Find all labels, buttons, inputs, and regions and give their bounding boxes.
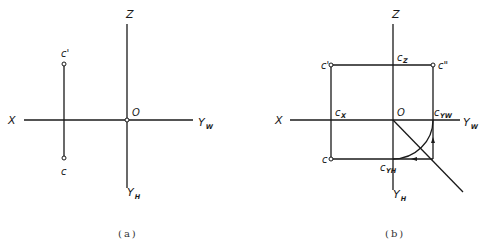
x-axis-label: X	[274, 114, 283, 127]
point-c-prime-label: c'	[321, 60, 329, 71]
point-c-double-prime-label: c"	[438, 60, 448, 71]
z-axis-label: Z	[125, 8, 134, 21]
point-c	[329, 157, 333, 161]
point-cx-label: cX	[335, 107, 347, 120]
origin-label: O	[397, 107, 405, 118]
panel-b: X Z O YW YH c' c" c cZ cX cYW cYH (b)	[274, 8, 479, 239]
arrow-up-icon	[431, 137, 435, 143]
caption-b: (b)	[385, 228, 405, 239]
point-c-label: c	[61, 166, 67, 177]
point-cyh-label: cYH	[380, 162, 397, 175]
projection-diagram: X Z O YW YH c' c (a) X Z O YW YH c' c" c	[0, 0, 485, 249]
point-cz-label: cZ	[397, 52, 408, 65]
x-axis-label: X	[7, 114, 16, 127]
yh-axis-label: YH	[393, 188, 407, 203]
point-c-prime-label: c'	[61, 48, 69, 59]
z-axis-label: Z	[391, 8, 400, 21]
yw-axis-label: YW	[198, 116, 214, 131]
yh-axis-label: YH	[127, 186, 141, 201]
origin-point	[125, 118, 129, 122]
diagonal-45-line	[393, 120, 463, 192]
point-c-double-prime	[431, 63, 435, 67]
panel-a: X Z O YW YH c' c (a)	[7, 8, 214, 239]
point-c-prime	[62, 62, 66, 66]
point-c-prime	[329, 63, 333, 67]
point-c-label: c	[322, 154, 328, 165]
origin-label: O	[132, 107, 140, 118]
yw-axis-label: YW	[463, 116, 479, 131]
caption-a: (a)	[118, 228, 138, 239]
arrow-left-icon	[411, 157, 417, 161]
point-cyw-label: cYW	[434, 107, 453, 120]
point-c	[62, 156, 66, 160]
